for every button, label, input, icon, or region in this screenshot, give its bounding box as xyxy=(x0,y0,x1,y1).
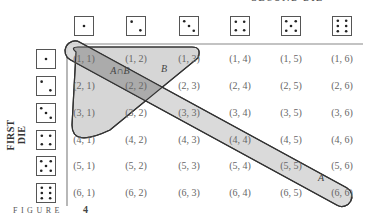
outcome-cell: (6, 1) xyxy=(73,187,95,198)
outcome-cell: (5, 6) xyxy=(331,160,353,171)
outcome-cell: (1, 4) xyxy=(229,53,251,64)
die-face-1-icon xyxy=(37,50,56,69)
outcome-cell: (6, 4) xyxy=(229,187,251,198)
outcome-cell: (3, 3) xyxy=(178,107,200,118)
outcome-cell: (4, 4) xyxy=(229,134,251,145)
set-b-label: B xyxy=(161,63,167,74)
set-a-label: A xyxy=(318,172,324,183)
outcome-cell: (5, 1) xyxy=(73,160,95,171)
figure-number: 4 xyxy=(83,204,88,215)
die-face-2-icon xyxy=(127,17,146,36)
intersection-label: A∩B xyxy=(110,65,129,76)
outcome-cell: (5, 5) xyxy=(280,160,302,171)
outcome-cell: (1, 5) xyxy=(280,53,302,64)
outcome-cell: (2, 2) xyxy=(125,80,147,91)
sample-space-figure: SECOND DIE FIRST DIE (1, 1)(1, 2)(1, 3)(… xyxy=(0,0,368,220)
outcome-cell: (4, 1) xyxy=(73,134,95,145)
outcome-cell: (5, 2) xyxy=(125,160,147,171)
figure-label: FIGURE xyxy=(13,206,63,215)
die-face-4-icon xyxy=(231,17,250,36)
die-face-5-icon xyxy=(282,17,301,36)
die-face-3-icon xyxy=(37,104,56,123)
die-face-5-icon xyxy=(37,157,56,176)
die-face-3-icon xyxy=(180,17,199,36)
outcome-cell: (3, 6) xyxy=(331,107,353,118)
outcome-cell: (5, 4) xyxy=(229,160,251,171)
second-die-label: SECOND DIE xyxy=(251,0,323,3)
outcome-cell: (6, 6) xyxy=(331,187,353,198)
outcome-cell: (2, 4) xyxy=(229,80,251,91)
die-face-2-icon xyxy=(37,77,56,96)
outcome-cell: (6, 2) xyxy=(125,187,147,198)
outcome-cell: (6, 3) xyxy=(178,187,200,198)
outcome-cell: (4, 5) xyxy=(280,134,302,145)
outcome-cell: (2, 6) xyxy=(331,80,353,91)
outcome-cell: (2, 3) xyxy=(178,80,200,91)
outcome-cell: (4, 2) xyxy=(125,134,147,145)
outcome-cell: (1, 6) xyxy=(331,53,353,64)
outcome-cell: (2, 1) xyxy=(73,80,95,91)
first-die-label: FIRST DIE xyxy=(5,112,27,158)
outcome-cell: (1, 1) xyxy=(73,53,95,64)
outcome-cell: (4, 6) xyxy=(331,134,353,145)
second-die-faces xyxy=(75,17,352,36)
die-face-6-icon xyxy=(37,184,56,203)
first-die-faces xyxy=(37,50,56,203)
outcome-cell: (1, 3) xyxy=(178,53,200,64)
outcome-cell: (5, 3) xyxy=(178,160,200,171)
outcome-cell: (6, 5) xyxy=(280,187,302,198)
die-face-4-icon xyxy=(37,131,56,150)
die-face-1-icon xyxy=(75,17,94,36)
outcome-cell: (1, 2) xyxy=(125,53,147,64)
outcome-cell: (3, 4) xyxy=(229,107,251,118)
outcome-cell: (2, 5) xyxy=(280,80,302,91)
outcome-cell: (4, 3) xyxy=(178,134,200,145)
outcome-cell: (3, 1) xyxy=(73,107,95,118)
die-face-6-icon xyxy=(333,17,352,36)
outcome-cell: (3, 2) xyxy=(125,107,147,118)
outcome-cell: (3, 5) xyxy=(280,107,302,118)
